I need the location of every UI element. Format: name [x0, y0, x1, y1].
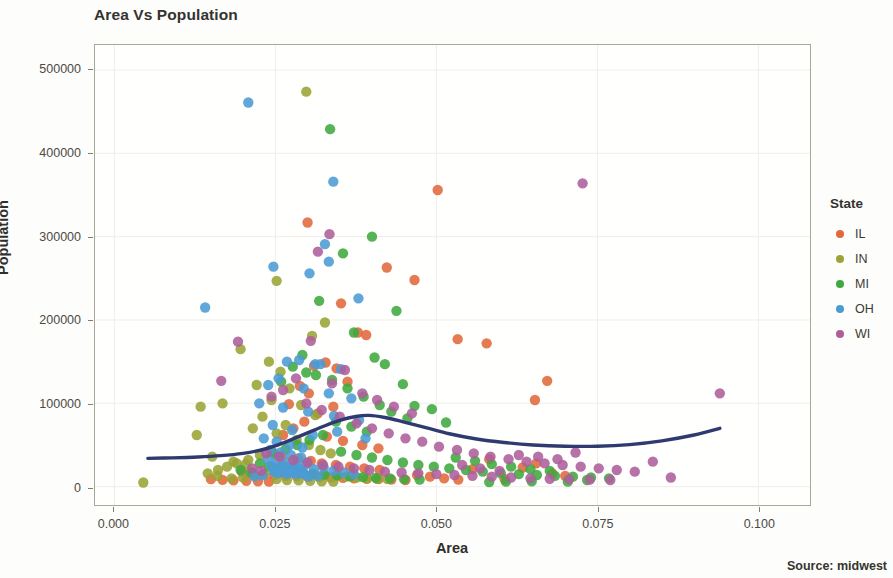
x-tick-mark — [759, 507, 760, 512]
scatter-point — [271, 276, 281, 286]
scatter-point — [349, 327, 359, 337]
scatter-point — [434, 441, 444, 451]
scatter-point — [302, 457, 312, 467]
scatter-point — [605, 475, 615, 485]
scatter-point — [469, 448, 479, 458]
scatter-point — [320, 239, 330, 249]
scatter-point — [594, 463, 604, 473]
legend-item-il[interactable]: IL — [836, 221, 893, 246]
scatter-point — [351, 418, 361, 428]
scatter-point — [432, 185, 442, 195]
scatter-point — [324, 229, 334, 239]
scatter-point — [222, 461, 232, 471]
scatter-point — [338, 248, 348, 258]
y-tick-mark — [88, 153, 93, 154]
scatter-point — [282, 469, 292, 479]
scatter-point — [332, 426, 342, 436]
y-tick-label: 400000 — [0, 146, 81, 160]
scatter-point — [427, 404, 437, 414]
scatter-point — [525, 473, 535, 483]
scatter-point — [715, 388, 725, 398]
scatter-point — [278, 385, 288, 395]
scatter-point — [367, 231, 377, 241]
scatter-point — [259, 433, 269, 443]
scatter-point — [257, 411, 267, 421]
scatter-point — [612, 465, 622, 475]
scatter-point — [327, 378, 337, 388]
scatter-point — [467, 471, 477, 481]
scatter-point — [361, 330, 371, 340]
legend-item-mi[interactable]: MI — [836, 271, 893, 296]
x-tick-label: 0.000 — [98, 517, 129, 531]
scatter-point — [506, 472, 516, 482]
scatter-point — [248, 423, 258, 433]
scatter-point — [304, 268, 314, 278]
scatter-point — [346, 393, 356, 403]
x-tick-label: 0.025 — [259, 517, 290, 531]
x-tick-label: 0.050 — [421, 517, 452, 531]
scatter-point — [514, 450, 524, 460]
legend-item-label: MI — [855, 277, 869, 291]
scatter-point — [409, 275, 419, 285]
loess-curve — [148, 415, 720, 458]
legend-title: State — [830, 196, 893, 211]
legend-item-oh[interactable]: OH — [836, 296, 893, 321]
scatter-point — [304, 471, 314, 481]
x-tick-mark — [436, 507, 437, 512]
scatter-point — [324, 256, 334, 266]
scatter-point — [256, 466, 266, 476]
scatter-point — [254, 398, 264, 408]
legend-color-dot-icon — [836, 305, 844, 313]
y-axis-label: Population — [0, 200, 11, 275]
scatter-point — [457, 460, 467, 470]
legend: State ILINMIOHWI — [828, 196, 893, 346]
legend-item-label: IN — [855, 252, 868, 266]
scatter-point — [268, 261, 278, 271]
scatter-point — [400, 433, 410, 443]
legend-item-label: OH — [855, 302, 874, 316]
scatter-point — [314, 296, 324, 306]
source-caption: Source: midwest — [787, 559, 887, 573]
scatter-point — [212, 471, 222, 481]
scatter-point — [288, 455, 298, 465]
legend-item-in[interactable]: IN — [836, 246, 893, 271]
x-tick-mark — [598, 507, 599, 512]
scatter-point — [373, 443, 383, 453]
scatter-point — [382, 262, 392, 272]
scatter-point — [138, 477, 148, 487]
y-tick-mark — [88, 404, 93, 405]
scatter-point — [315, 445, 325, 455]
scatter-point — [291, 469, 301, 479]
scatter-point — [564, 474, 574, 484]
x-tick-mark — [275, 507, 276, 512]
scatter-point — [481, 338, 491, 348]
scatter-point — [533, 451, 543, 461]
y-tick-label: 300000 — [0, 230, 81, 244]
legend-color-dot-icon — [836, 230, 844, 238]
scatter-point — [297, 442, 307, 452]
scatter-point — [226, 473, 236, 483]
scatter-point — [313, 471, 323, 481]
scatter-point — [294, 355, 304, 365]
scatter-point — [452, 445, 462, 455]
scatter-point — [263, 380, 273, 390]
chart-title: Area Vs Population — [94, 6, 238, 24]
plot-panel — [94, 44, 811, 506]
x-axis-label: Area — [436, 540, 468, 556]
scatter-point — [336, 298, 346, 308]
scatter-point — [585, 474, 595, 484]
scatter-point — [666, 472, 676, 482]
scatter-point — [542, 376, 552, 386]
scatter-point — [364, 465, 374, 475]
scatter-point — [413, 468, 423, 478]
y-tick-label: 0 — [0, 481, 81, 495]
scatter-point — [195, 401, 205, 411]
legend-rows: ILINMIOHWI — [828, 221, 893, 346]
legend-item-wi[interactable]: WI — [836, 321, 893, 346]
scatter-point — [266, 391, 276, 401]
scatter-point — [216, 376, 226, 386]
x-tick-label: 0.075 — [582, 517, 613, 531]
loess-smoother-layer — [148, 415, 720, 458]
scatter-point — [264, 356, 274, 366]
scatter-point — [530, 395, 540, 405]
